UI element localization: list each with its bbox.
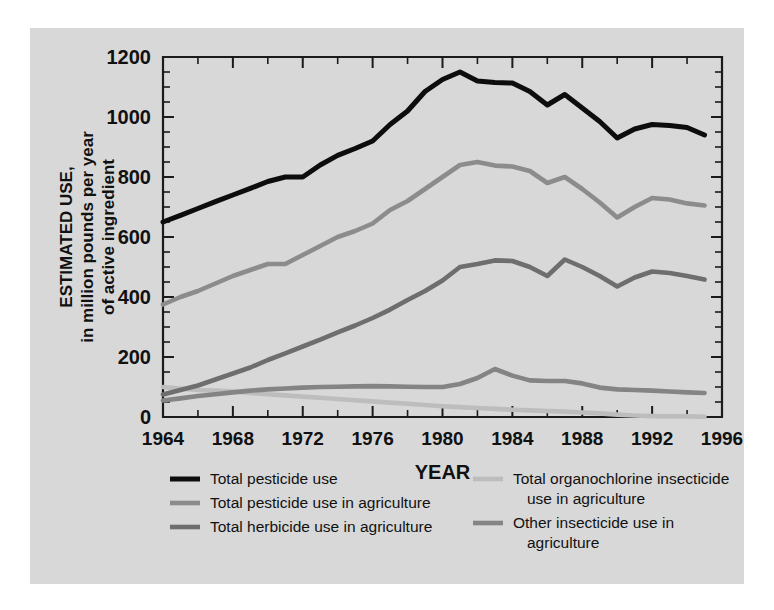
y-tick-label: 200 <box>118 346 151 368</box>
line-chart: 0200400600800100012001964196819721976198… <box>30 28 744 584</box>
x-tick-label: 1996 <box>701 428 743 449</box>
x-tick-label: 1984 <box>491 428 534 449</box>
y-axis-title-line: of active ingredient <box>99 159 118 315</box>
legend-label: Total herbicide use in agriculture <box>210 518 432 535</box>
x-axis-title: YEAR <box>415 461 471 483</box>
x-tick-label: 1992 <box>631 428 673 449</box>
x-tick-label: 1980 <box>421 428 463 449</box>
series-line-4 <box>163 369 705 401</box>
y-axis-title-line: in million pounds per year <box>78 131 97 343</box>
series-line-2 <box>163 260 705 395</box>
plot-frame <box>163 57 722 417</box>
legend-label: Other insecticide use in <box>513 514 674 531</box>
x-tick-label: 1964 <box>142 428 185 449</box>
y-tick-label: 800 <box>118 166 151 188</box>
x-tick-label: 1988 <box>561 428 603 449</box>
y-tick-label: 0 <box>140 406 151 428</box>
legend-label: use in agriculture <box>527 490 645 507</box>
plot-area: 0200400600800100012001964196819721976198… <box>30 28 744 584</box>
chart-panel: 0200400600800100012001964196819721976198… <box>30 28 744 584</box>
legend-label: Total pesticide use in agriculture <box>210 494 431 511</box>
legend-label: Total organochlorine insecticide <box>513 470 729 487</box>
y-axis-title-line: ESTIMATED USE, <box>57 166 76 307</box>
y-tick-label: 1200 <box>107 46 152 68</box>
figure-canvas: 0200400600800100012001964196819721976198… <box>0 0 774 610</box>
y-tick-label: 400 <box>118 286 151 308</box>
x-tick-label: 1972 <box>282 428 324 449</box>
series-line-0 <box>163 72 705 222</box>
x-tick-label: 1968 <box>212 428 254 449</box>
legend-label: agriculture <box>527 534 599 551</box>
y-tick-label: 1000 <box>107 106 152 128</box>
y-axis-title: ESTIMATED USE,in million pounds per year… <box>57 131 118 343</box>
legend-label: Total pesticide use <box>210 470 338 487</box>
y-tick-label: 600 <box>118 226 151 248</box>
x-tick-label: 1976 <box>351 428 393 449</box>
